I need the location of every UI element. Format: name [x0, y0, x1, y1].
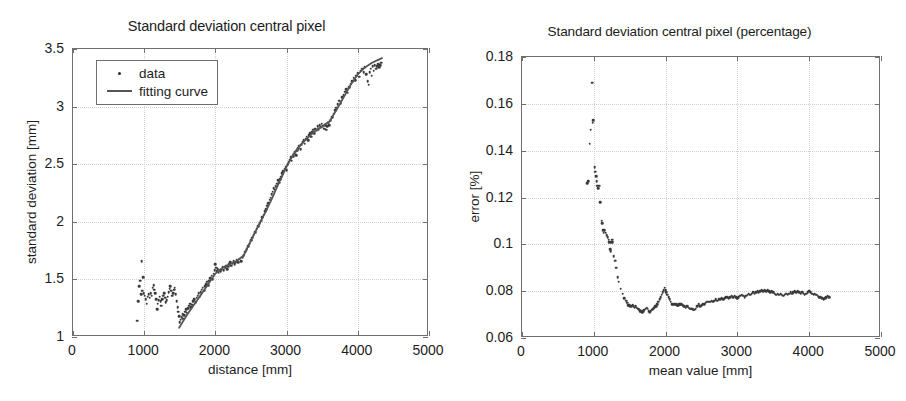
data-point [591, 121, 594, 124]
data-point [173, 289, 176, 292]
plot-area-right [521, 56, 880, 337]
data-point [365, 73, 368, 76]
gridline-horizontal [522, 151, 879, 153]
data-point [148, 297, 151, 300]
data-point [212, 272, 215, 275]
chart-panel-left: Standard deviation central pixel distanc… [0, 0, 453, 401]
data-point [379, 64, 382, 67]
data-point [214, 263, 217, 266]
data-point [177, 310, 180, 313]
data-point [176, 306, 179, 309]
data-point [198, 295, 201, 298]
data-point [265, 208, 268, 211]
data-point [616, 276, 619, 279]
gridline-vertical [358, 49, 360, 335]
data-point [138, 285, 141, 288]
data-point [292, 155, 295, 158]
data-point [137, 300, 140, 303]
y-axis-tick [423, 107, 428, 108]
data-point [599, 201, 602, 204]
data-point [207, 284, 210, 287]
x-axis-tick [215, 331, 216, 336]
data-point [166, 299, 169, 302]
data-point [182, 317, 185, 320]
data-point [278, 181, 281, 184]
y-axis-tick [521, 104, 526, 105]
y-axis-tick [423, 337, 428, 338]
y-axis-tick [875, 244, 880, 245]
gridline-horizontal [73, 164, 427, 166]
x-axis-tick [73, 331, 74, 336]
x-tick-label: 2000 [199, 342, 230, 358]
data-point [296, 149, 299, 152]
data-point [354, 79, 357, 82]
data-point [589, 142, 592, 145]
y-tick-label: 0.08 [471, 282, 513, 298]
data-point [310, 135, 313, 138]
data-point [660, 293, 663, 296]
data-point [243, 254, 246, 257]
x-axis-tick [809, 332, 810, 337]
data-point [175, 300, 178, 303]
x-axis-tick [737, 332, 738, 337]
data-point [373, 70, 376, 73]
data-point [271, 191, 274, 194]
y-axis-tick [423, 222, 428, 223]
data-point [367, 83, 370, 86]
data-point [591, 82, 594, 85]
x-tick-label: 4000 [793, 343, 824, 359]
data-point [274, 188, 277, 191]
y-tick-label: 2.5 [32, 155, 64, 171]
data-point [260, 219, 263, 222]
y-tick-label: 0.16 [471, 95, 513, 111]
data-point [269, 196, 272, 199]
data-point [248, 242, 251, 245]
data-point [241, 256, 244, 259]
data-point [595, 175, 598, 178]
x-tick-label: 0 [68, 342, 76, 358]
data-point [143, 294, 146, 297]
gridline-horizontal [522, 244, 879, 246]
data-point [250, 239, 253, 242]
data-point [342, 94, 345, 97]
data-point [270, 193, 273, 196]
data-point [268, 199, 271, 202]
y-tick-label: 3.5 [32, 40, 64, 56]
data-point [329, 119, 332, 122]
data-point [595, 180, 598, 183]
y-tick-label: 0.06 [471, 329, 513, 345]
x-axis-tick [215, 48, 216, 53]
data-point [171, 294, 174, 297]
data-point [282, 170, 285, 173]
data-point [156, 308, 159, 311]
y-axis-tick [521, 198, 526, 199]
data-point [203, 290, 206, 293]
y-axis-tick [521, 338, 526, 339]
data-point [358, 75, 361, 78]
data-point [313, 132, 316, 135]
y-axis-tick [875, 104, 880, 105]
x-axis-tick [666, 56, 667, 61]
y-axis-tick [521, 151, 526, 152]
data-point [280, 176, 283, 179]
data-point [244, 251, 247, 254]
y-tick-label: 0.1 [471, 235, 513, 251]
legend-entry-data: data [104, 64, 208, 82]
data-point [285, 169, 288, 172]
x-axis-tick [429, 331, 430, 336]
data-point [257, 225, 260, 228]
x-axis-tick [358, 331, 359, 336]
data-point [325, 128, 328, 131]
gridline-horizontal [73, 279, 427, 281]
data-point [139, 279, 142, 282]
data-point [695, 307, 698, 310]
data-point [613, 255, 616, 258]
y-axis-tick [423, 49, 428, 50]
gridline-horizontal [522, 291, 879, 293]
data-point [339, 102, 342, 105]
y-axis-label-left: standard deviation [mm] [24, 48, 39, 336]
data-point [169, 285, 172, 288]
data-point [279, 178, 282, 181]
data-point [655, 305, 658, 308]
data-point [317, 128, 320, 131]
